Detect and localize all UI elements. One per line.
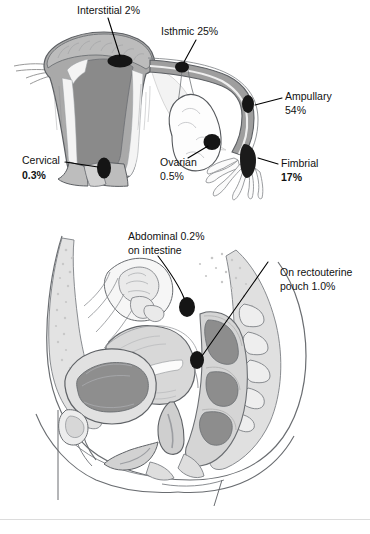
label-ovarian-percent: 0.5% [160,170,184,182]
rectouterine-marker [190,351,204,369]
thigh-contour-left [36,414,178,493]
label-fimbrial-name: Fimbrial [281,157,318,169]
uterus-tube-diagram: Interstitial 2% Isthmic 25% Ampullary 54… [0,0,370,215]
ampullary-marker [242,95,254,113]
perineal-fold-right [162,480,224,486]
label-abdominal-line1: Abdominal 0.2% [128,230,204,242]
label-cervical-name: Cervical [22,154,60,166]
perineal-body [146,462,174,480]
fimbrial-marker [240,144,256,178]
label-rectouterine-line2: pouch 1.0% [280,280,335,292]
label-ampullary-percent: 54% [285,104,306,116]
fimbrial-leader [258,158,278,164]
myometrium-striations-right [144,86,150,130]
ectopic-pregnancy-figure: Interstitial 2% Isthmic 25% Ampullary 54… [0,0,370,534]
label-cervical-percent: 0.3% [22,169,47,181]
label-isthmic: Isthmic 25% [161,25,218,37]
pelvis-sagittal-diagram: Abdominal 0.2% on intestine On rectouter… [0,214,370,534]
label-ovarian-name: Ovarian [160,156,197,168]
label-rectouterine-line1: On rectouterine [280,266,353,278]
cervical-marker [97,158,111,179]
abdominal-marker [179,297,195,317]
label-ampullary-name: Ampullary [285,90,332,102]
bladder-lumen [77,363,149,413]
label-interstitial: Interstitial 2% [77,4,140,16]
label-fimbrial-percent: 17% [281,171,303,183]
caption-rule [0,519,370,520]
isthmic-leader [184,40,196,62]
label-abdominal-line2: on intestine [128,244,182,256]
isthmic-marker [175,62,189,73]
cervix-left-lip [58,162,88,186]
ampullary-leader [255,98,282,105]
leg-line-right [214,480,222,506]
